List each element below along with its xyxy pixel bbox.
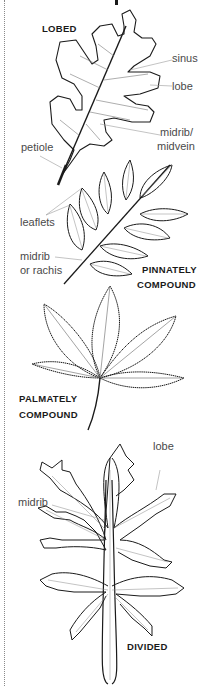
lobed-leaf-drawing xyxy=(50,10,160,185)
callout-midrib: midrib/ xyxy=(160,126,193,139)
callout-sinus: sinus xyxy=(172,52,198,65)
callout-lobe-divided: lobe xyxy=(153,440,174,453)
title-divided: DIVIDED xyxy=(127,640,168,653)
leaf-illustrations xyxy=(0,0,208,686)
callout-leaflets: leaflets xyxy=(20,216,55,229)
title-compound-pinnate: COMPOUND xyxy=(137,278,196,291)
callout-midrib-rachis: midrib xyxy=(20,250,50,263)
lobed-leader-lines xyxy=(40,60,172,168)
title-lobed: LOBED xyxy=(42,22,77,35)
callout-midvein: midvein xyxy=(157,140,195,153)
callout-petiole: petiole xyxy=(21,141,53,154)
title-palmately: PALMATELY xyxy=(19,392,77,405)
leaf-types-diagram: LOBED sinus lobe midrib/ midvein petiole… xyxy=(0,0,208,686)
callout-midrib-divided: midrib xyxy=(18,496,48,509)
callout-lobe: lobe xyxy=(172,80,193,93)
title-pinnately: PINNATELY xyxy=(142,263,197,276)
callout-or-rachis: or rachis xyxy=(20,264,62,277)
title-compound-palmate: COMPOUND xyxy=(19,408,78,421)
